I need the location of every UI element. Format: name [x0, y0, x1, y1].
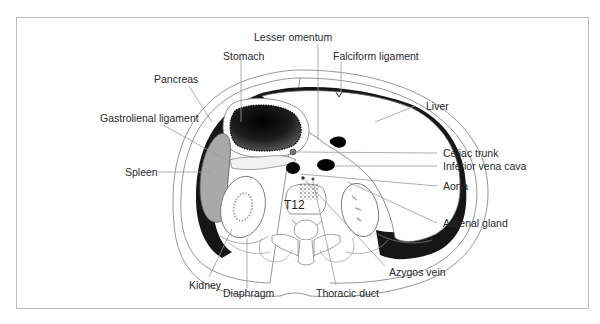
azygos-vein [301, 176, 305, 180]
label-liver: Liver [426, 100, 449, 112]
vertebra-label: T12 [284, 198, 305, 212]
aorta [286, 162, 300, 174]
label-azygos-vein: Azygos vein [389, 266, 446, 278]
label-adrenal-gland: Adrenal gland [443, 217, 508, 229]
label-stomach: Stomach [223, 50, 264, 62]
inferior-vena-cava [317, 159, 335, 171]
thoracic-duct [312, 178, 315, 181]
label-kidney: Kidney [189, 279, 221, 291]
label-falciform-ligament: Falciform ligament [333, 50, 419, 62]
stomach [223, 98, 309, 157]
label-inferior-vena-cava: Inferior vena cava [443, 160, 526, 172]
label-aorta: Aorta [443, 180, 468, 192]
vertebra-t12: T12 [272, 184, 340, 265]
label-celiac-trunk: Celiac trunk [443, 147, 498, 159]
label-spleen: Spleen [125, 166, 158, 178]
label-pancreas: Pancreas [154, 73, 198, 85]
label-lesser-omentum: Lesser omentum [254, 31, 332, 43]
label-thoracic-duct: Thoracic duct [316, 287, 379, 299]
celiac-trunk [290, 149, 296, 155]
label-gastrolienal-ligament: Gastrolienal ligament [100, 112, 199, 124]
label-diaphragm: Diaphragm [223, 287, 274, 299]
